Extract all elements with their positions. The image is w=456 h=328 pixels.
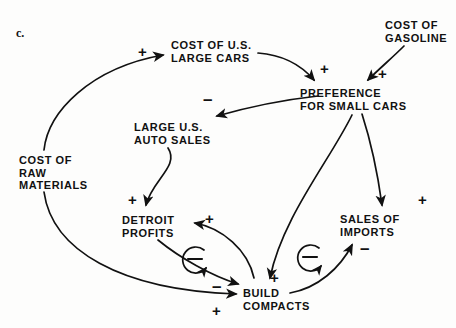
node-cost-of-raw-materials: COST OF RAW MATERIALS [19, 154, 88, 192]
node-large-us-auto-sales: LARGE U.S. AUTO SALES [134, 121, 211, 146]
link-cost-us-large-cars-to-preference [258, 53, 314, 80]
sign-autosales-to-detroit: + [128, 192, 137, 207]
sign-preference-to-compacts: + [270, 270, 279, 285]
sign-preference-to-imports: + [418, 192, 427, 207]
node-cost-us-large-cars-line-1: COST OF U.S. [171, 39, 252, 52]
node-cost-of-gasoline: COST OF GASOLINE [385, 19, 447, 44]
sign-largecars-to-preference: + [320, 61, 329, 76]
link-raw-materials-to-build-compacts [44, 192, 236, 294]
node-build-compacts-line-1: BUILD [243, 287, 310, 300]
node-detroit-profits-line-2: PROFITS [122, 227, 174, 240]
node-cost-us-large-cars-line-2: LARGE CARS [171, 52, 252, 65]
link-preference-to-build-compacts [270, 115, 352, 278]
node-cost-of-raw-materials-line-3: MATERIALS [19, 179, 88, 192]
link-preference-to-sales-of-imports [362, 114, 382, 205]
sign-compacts-to-detroit: + [205, 211, 214, 226]
sign-rawmat-to-compacts: + [212, 303, 221, 318]
node-large-us-auto-sales-line-1: LARGE U.S. [134, 121, 211, 134]
node-cost-of-raw-materials-line-2: RAW [19, 167, 88, 180]
node-build-compacts: BUILD COMPACTS [243, 287, 310, 312]
sign-detroit-to-compacts: – [212, 279, 221, 294]
node-cost-of-gasoline-line-2: GASOLINE [385, 32, 447, 45]
sign-compacts-to-imports: – [360, 241, 369, 256]
causal-loop-diagram-figure: c. [0, 0, 456, 328]
node-detroit-profits-line-1: DETROIT [122, 214, 174, 227]
sign-preference-to-autosales: – [203, 92, 212, 107]
node-sales-of-imports-line-2: IMPORTS [340, 226, 400, 239]
node-cost-of-gasoline-line-1: COST OF [385, 19, 447, 32]
node-cost-us-large-cars: COST OF U.S. LARGE CARS [171, 39, 252, 64]
node-build-compacts-line-2: COMPACTS [243, 300, 310, 313]
node-detroit-profits: DETROIT PROFITS [122, 214, 174, 239]
sign-gasoline-to-preference: + [378, 66, 387, 81]
node-sales-of-imports-line-1: SALES OF [340, 213, 400, 226]
node-cost-of-raw-materials-line-1: COST OF [19, 154, 88, 167]
node-preference-small-cars-line-1: PREFERENCE [300, 87, 407, 100]
sign-rawmat-to-largecars: + [138, 44, 147, 59]
node-large-us-auto-sales-line-2: AUTO SALES [134, 134, 211, 147]
node-preference-small-cars-line-2: FOR SMALL CARS [300, 100, 407, 113]
node-sales-of-imports: SALES OF IMPORTS [340, 213, 400, 238]
link-large-auto-sales-to-detroit-profits [146, 148, 171, 205]
node-preference-small-cars: PREFERENCE FOR SMALL CARS [300, 87, 407, 112]
